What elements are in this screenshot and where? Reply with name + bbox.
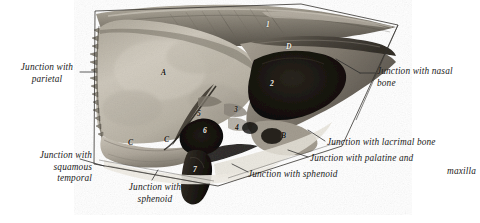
label-junction-with-parietal: Junction with parietal [4,62,90,85]
label-junction-with-palatine-and-maxilla: Junction with palatine and [310,153,442,165]
label-junction-with-sphenoid-right: Junction with sphenoid [248,169,378,181]
anatomical-plate [0,0,480,223]
label-junction-with-lacrimal-bone: Junction with lacrimal bone [327,137,479,149]
label-junction-with-squamous-temporal: Junction with squamous temporal [2,150,92,185]
label-junction-with-nasal-bone: Junction with nasal bone [377,66,477,89]
label-junction-with-sphenoid-bottom: Junction with sphenoid [100,182,210,205]
